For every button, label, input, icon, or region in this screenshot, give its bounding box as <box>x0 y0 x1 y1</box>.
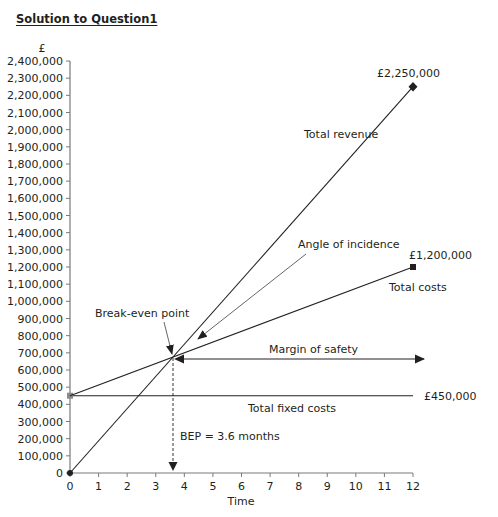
break-even-chart: £ 0100,000200,000300,000400,000500,00060… <box>0 0 498 517</box>
y-tick-label: 2,400,000 <box>7 55 63 68</box>
y-tick-label: 1,300,000 <box>7 244 63 257</box>
total-costs-end-marker <box>410 264 416 270</box>
y-tick-label: 2,200,000 <box>7 89 63 102</box>
y-tick-label: 900,000 <box>18 313 64 326</box>
y-axis: £ 0100,000200,000300,000400,000500,00060… <box>7 42 70 480</box>
x-tick-label: 5 <box>209 480 216 493</box>
x-tick-label: 4 <box>181 480 188 493</box>
svg-text:Margin of safety: Margin of safety <box>269 343 359 356</box>
y-tick-label: 1,700,000 <box>7 175 63 188</box>
y-tick-label: 600,000 <box>18 364 64 377</box>
y-tick-label: 1,900,000 <box>7 141 63 154</box>
y-tick-label: 400,000 <box>18 398 64 411</box>
annotation-angle-of-incidence: Angle of incidence <box>198 238 400 339</box>
x-tick-label: 7 <box>267 480 274 493</box>
y-tick-label: 200,000 <box>18 433 64 446</box>
y-tick-label: 2,100,000 <box>7 107 63 120</box>
y-tick-label: 1,500,000 <box>7 210 63 223</box>
y-tick-label: 1,100,000 <box>7 278 63 291</box>
series-total-fixed-costs: £450,000 Total fixed costs <box>67 390 477 415</box>
y-tick-label: 2,300,000 <box>7 72 63 85</box>
x-tick-label: 8 <box>295 480 302 493</box>
annotation-margin-of-safety: Margin of safety <box>174 343 425 364</box>
y-tick-label: 1,200,000 <box>7 261 63 274</box>
x-tick-label: 10 <box>349 480 363 493</box>
x-tick-label: 6 <box>238 480 245 493</box>
y-tick-label: 100,000 <box>18 450 64 463</box>
y-tick-label: 300,000 <box>18 416 64 429</box>
y-tick-label: 1,800,000 <box>7 158 63 171</box>
y-tick-label: 700,000 <box>18 347 64 360</box>
y-axis-ticks: 0100,000200,000300,000400,000500,000600,… <box>7 55 70 480</box>
total-revenue-label: Total revenue <box>303 128 378 141</box>
y-tick-label: 1,600,000 <box>7 192 63 205</box>
series-total-costs: £1,200,000 Total costs <box>70 249 472 396</box>
x-tick-label: 0 <box>67 480 74 493</box>
x-tick-label: 3 <box>152 480 159 493</box>
x-tick-label: 12 <box>406 480 420 493</box>
x-tick-label: 1 <box>95 480 102 493</box>
x-tick-label: 9 <box>324 480 331 493</box>
y-axis-label: £ <box>39 42 46 55</box>
x-tick-label: 11 <box>377 480 391 493</box>
fixed-costs-value: £450,000 <box>424 390 477 403</box>
y-tick-label: 0 <box>56 467 63 480</box>
y-tick-label: 2,000,000 <box>7 124 63 137</box>
x-axis-label: Time <box>227 495 255 508</box>
y-tick-label: 1,400,000 <box>7 227 63 240</box>
y-tick-label: 1,000,000 <box>7 295 63 308</box>
y-tick-label: 500,000 <box>18 381 64 394</box>
annotation-break-even-point: Break-even point <box>95 307 190 354</box>
fixed-costs-label: Total fixed costs <box>247 402 336 415</box>
svg-text:Break-even point: Break-even point <box>95 307 190 320</box>
svg-text:Angle of incidence: Angle of incidence <box>298 238 400 251</box>
x-tick-label: 2 <box>124 480 131 493</box>
total-costs-value: £1,200,000 <box>409 249 472 262</box>
svg-text:BEP = 3.6 months: BEP = 3.6 months <box>180 430 280 443</box>
x-axis-ticks: 0123456789101112 <box>67 473 421 493</box>
total-revenue-value: £2,250,000 <box>377 67 440 80</box>
total-costs-label: Total costs <box>388 281 447 294</box>
y-tick-label: 800,000 <box>18 330 64 343</box>
x-axis: 0123456789101112 Time <box>67 473 421 508</box>
